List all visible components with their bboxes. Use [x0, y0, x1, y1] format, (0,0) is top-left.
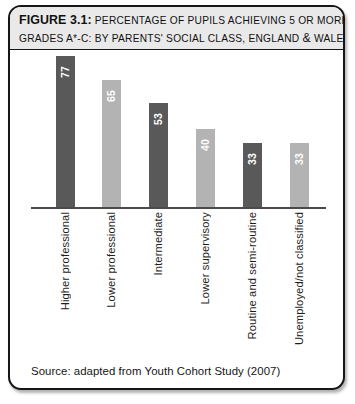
bar[interactable]: 53: [149, 103, 168, 208]
category-label-text: Unemployed/not classified: [290, 212, 309, 345]
caption-line-1: FIGURE 3.1: PERCENTAGE OF PUPILS ACHIEVI…: [19, 12, 335, 30]
bar-value-label: 65: [102, 83, 121, 109]
figure-caption: FIGURE 3.1: PERCENTAGE OF PUPILS ACHIEVI…: [10, 7, 343, 50]
bars-layer: 77 65 53 40 33: [10, 50, 343, 208]
category-label: Intermediate: [149, 212, 168, 344]
category-label: Higher professional: [56, 212, 75, 344]
bar[interactable]: 65: [102, 80, 121, 208]
category-label-text: Routine and semi-routine: [243, 212, 262, 339]
category-label-text: Lower supervisory: [196, 212, 215, 304]
chart-plot-area: 77 65 53 40 33: [10, 50, 343, 346]
bar[interactable]: 77: [56, 56, 75, 208]
category-label: Lower professional: [102, 212, 121, 344]
caption-text-2a: GRADES A*-C: BY PARENTS' SOCIAL CLASS, E…: [19, 33, 299, 44]
bar-value-label: 53: [149, 106, 168, 132]
caption-text-2b: WALES, 2004: [314, 33, 345, 44]
category-label: Routine and semi-routine: [243, 212, 262, 344]
source-note: Source: adapted from Youth Cohort Study …: [31, 365, 280, 377]
bar-value-label: 33: [290, 146, 309, 172]
category-labels: Higher professional Lower professional I…: [10, 212, 343, 344]
caption-ampersand: &: [303, 31, 311, 45]
category-label-text: Higher professional: [56, 212, 75, 310]
bar-value-label: 33: [243, 146, 262, 172]
caption-line-2: GRADES A*-C: BY PARENTS' SOCIAL CLASS, E…: [19, 30, 335, 48]
caption-text-1: PERCENTAGE OF PUPILS ACHIEVING 5 OR MORE…: [95, 15, 345, 26]
bar[interactable]: 33: [290, 143, 309, 208]
category-label-text: Intermediate: [149, 212, 168, 275]
category-label: Lower supervisory: [196, 212, 215, 344]
figure-frame: FIGURE 3.1: PERCENTAGE OF PUPILS ACHIEVI…: [8, 5, 345, 390]
figure-number: FIGURE 3.1:: [19, 13, 92, 27]
bar[interactable]: 40: [196, 129, 215, 208]
category-label-text: Lower professional: [102, 212, 121, 308]
bar-value-label: 40: [196, 132, 215, 158]
category-label: Unemployed/not classified: [290, 212, 309, 344]
bar-value-label: 77: [56, 59, 75, 85]
x-axis-line: [31, 207, 326, 209]
bar[interactable]: 33: [243, 143, 262, 208]
